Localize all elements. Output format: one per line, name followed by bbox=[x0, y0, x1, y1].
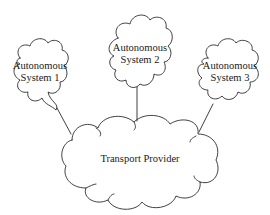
node-label-transport: Transport Provider bbox=[100, 153, 179, 165]
edge-as1-transport bbox=[57, 108, 71, 134]
node-label-as3: Autonomous System 3 bbox=[203, 60, 257, 84]
edge-as3-transport bbox=[199, 104, 213, 132]
node-label-as2-line2: System 2 bbox=[113, 54, 167, 66]
diagram-graphics bbox=[0, 0, 270, 215]
node-label-as1-line1: Autonomous bbox=[13, 60, 67, 72]
diagram-canvas: Autonomous System 1 Autonomous System 2 … bbox=[0, 0, 270, 215]
node-label-as2-line1: Autonomous bbox=[113, 42, 167, 54]
node-label-as2: Autonomous System 2 bbox=[113, 42, 167, 66]
node-label-as3-line2: System 3 bbox=[203, 72, 257, 84]
node-label-as1-line2: System 1 bbox=[13, 72, 67, 84]
node-label-as1: Autonomous System 1 bbox=[13, 60, 67, 84]
node-label-as3-line1: Autonomous bbox=[203, 60, 257, 72]
